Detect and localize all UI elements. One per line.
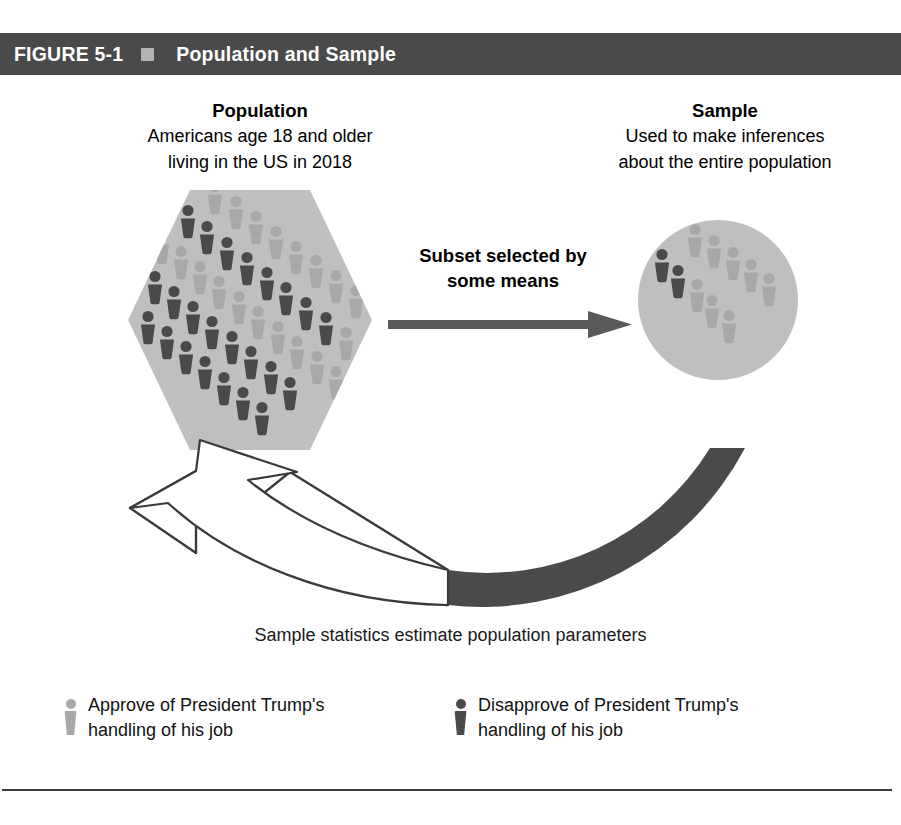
person-icon: [705, 295, 719, 328]
person-icon: [179, 341, 193, 374]
person-icon: [198, 356, 212, 389]
person-icon: [205, 316, 219, 349]
person-icon: [200, 221, 214, 254]
person-icon: [174, 246, 188, 279]
person-icon: [289, 241, 303, 274]
legend-label-approve: Approve of President Trump's handling of…: [88, 693, 325, 743]
legend-label-disapprove: Disapprove of President Trump's handling…: [478, 693, 739, 743]
person-icon: [255, 402, 269, 435]
person-icon: [232, 291, 246, 324]
legend-approve-line2: handling of his job: [88, 720, 233, 740]
person-icon: [141, 311, 155, 344]
person-icon: [225, 331, 239, 364]
legend-disapprove-line2: handling of his job: [478, 720, 623, 740]
person-icon: [148, 271, 162, 304]
person-icon: [290, 336, 304, 369]
person-icon: [279, 282, 293, 315]
person-icon: [167, 286, 181, 319]
return-arrow-icon: [130, 440, 745, 607]
person-icon: [329, 366, 343, 399]
legend-item-approve: Approve of President Trump's handling of…: [62, 693, 325, 743]
person-icon: [299, 297, 313, 330]
person-icon: [339, 327, 353, 360]
person-icon: [181, 205, 195, 238]
person-icon: [269, 226, 283, 259]
person-icon: [217, 372, 231, 405]
person-icon: [283, 377, 297, 410]
person-icon: [251, 306, 265, 339]
person-icon: [310, 351, 324, 384]
legend-item-disapprove: Disapprove of President Trump's handling…: [452, 693, 739, 743]
person-icon: [762, 273, 776, 306]
bottom-caption: Sample statistics estimate population pa…: [0, 625, 901, 646]
person-icon: [452, 699, 469, 735]
person-icon: [229, 196, 243, 229]
person-icon: [186, 301, 200, 334]
person-icon: [193, 261, 207, 294]
person-icon: [249, 211, 263, 244]
legend: Approve of President Trump's handling of…: [0, 693, 901, 763]
person-icon: [260, 267, 274, 300]
person-icon: [707, 235, 721, 268]
person-icon: [688, 224, 702, 257]
person-icon: [271, 321, 285, 354]
person-icon: [744, 259, 758, 292]
person-icon: [236, 387, 250, 420]
person-icon: [655, 249, 669, 282]
legend-approve-line1: Approve of President Trump's: [88, 695, 325, 715]
person-icon: [726, 247, 740, 280]
person-icon: [319, 312, 333, 345]
person-icon: [309, 255, 323, 288]
person-icon: [722, 310, 736, 343]
person-icon: [329, 270, 343, 303]
person-icon: [208, 181, 222, 214]
person-icon: [62, 699, 79, 735]
person-icon: [212, 276, 226, 309]
person-icon: [155, 231, 169, 264]
figure-container: FIGURE 5-1 Population and Sample Populat…: [0, 0, 901, 825]
person-icon: [240, 252, 254, 285]
person-icon: [129, 255, 143, 288]
subset-arrow-icon: [388, 311, 632, 338]
person-icon: [264, 361, 278, 394]
legend-disapprove-line1: Disapprove of President Trump's: [478, 695, 739, 715]
person-icon: [671, 265, 685, 298]
person-icon: [690, 279, 704, 312]
person-icon: [160, 326, 174, 359]
person-icon: [359, 341, 373, 374]
person-icon: [220, 237, 234, 270]
person-icon: [244, 346, 258, 379]
bottom-divider: [2, 789, 892, 791]
person-icon: [349, 285, 363, 318]
